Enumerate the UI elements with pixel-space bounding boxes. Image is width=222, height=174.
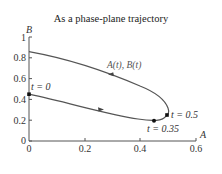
x-axis-label: A [199,129,207,140]
point-t05 [165,113,169,117]
x-tick-label: 0 [27,143,32,154]
x-tick-label: 0.6 [190,143,203,154]
phase-plane-chart: As a phase-plane trajectory 0 0.2 0.4 0.… [0,0,222,174]
y-tick-label: 0.2 [14,115,27,126]
y-tick-label: 0.6 [14,73,27,84]
point-t0 [27,92,31,96]
direction-arrow-icon [108,72,114,76]
x-tick-label: 0.4 [134,143,147,154]
x-tick-label: 0.2 [79,143,92,154]
chart-title: As a phase-plane trajectory [54,13,169,24]
annotation-t05: t = 0.5 [171,109,198,120]
y-tick-label: 0.8 [14,52,27,63]
curve-label: A(t), B(t) [106,60,141,71]
annotation-t0: t = 0 [31,81,51,92]
annotation-t035: t = 0.35 [147,123,179,134]
y-axis-label: B [26,24,32,35]
direction-arrow-icon [98,107,104,111]
y-tick-label: 0 [21,135,26,146]
y-tick-label: 0.4 [14,94,27,105]
